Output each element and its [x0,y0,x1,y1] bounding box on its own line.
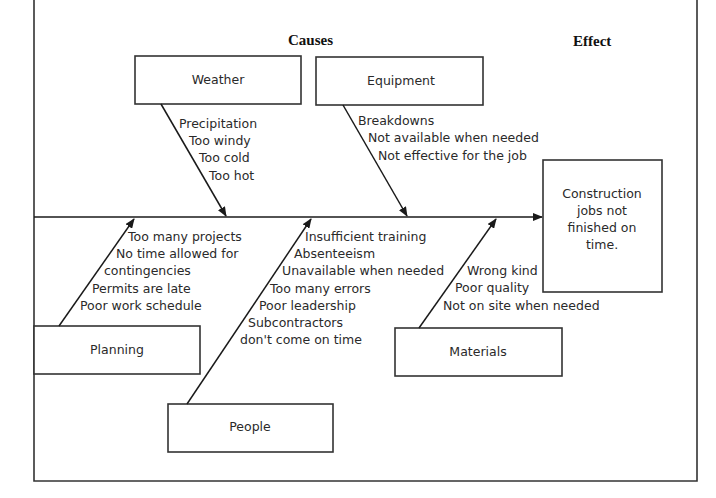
cause-item: contingencies [104,263,191,278]
cause-item: Insufficient training [305,229,426,244]
materials-label: Materials [449,344,506,359]
cause-item: No time allowed for [116,246,239,261]
effect-line: finished on [568,220,637,235]
cause-item: Poor quality [455,280,530,295]
effect-line: Construction [562,186,642,201]
cause-item: Too hot [208,168,254,183]
cause-item: Not available when needed [368,130,539,145]
effect-line: jobs not [576,203,627,218]
cause-item: Poor work schedule [80,298,202,313]
cause-item: Permits are late [92,281,191,296]
cause-item: Unavailable when needed [282,263,444,278]
planning-label: Planning [90,342,144,357]
cause-item: Not effective for the job [378,148,527,163]
cause-item: don't come on time [240,332,362,347]
cause-item: Wrong kind [467,263,538,278]
category-equipment: Equipment Breakdowns Not available when … [316,57,539,216]
cause-item: Too many projects [127,229,242,244]
category-planning: Planning Too many projects No time allow… [34,219,242,374]
fishbone-diagram: Causes Effect Construction jobs not fini… [0,0,716,498]
cause-item: Absenteeism [294,246,375,261]
causes-header: Causes [288,32,333,48]
cause-item: Too cold [198,150,250,165]
effect-line: time. [586,237,618,252]
equipment-label: Equipment [367,73,435,88]
cause-item: Too windy [188,133,251,148]
cause-item: Poor leadership [259,298,356,313]
people-label: People [229,419,271,434]
weather-label: Weather [192,72,245,87]
category-weather: Weather Precipitation Too windy Too cold… [135,56,301,216]
effect-header: Effect [573,33,611,49]
cause-item: Breakdowns [358,113,434,128]
cause-item: Too many errors [269,281,371,296]
cause-item: Precipitation [179,116,257,131]
cause-item: Subcontractors [248,315,343,330]
cause-item: Not on site when needed [443,298,600,313]
